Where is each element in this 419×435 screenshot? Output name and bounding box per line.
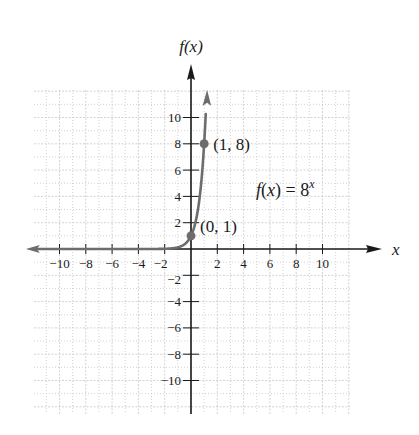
y-tick-label: 2 (175, 215, 182, 230)
y-tick-label: 6 (175, 163, 182, 178)
data-point (200, 139, 209, 148)
x-tick-label: −10 (49, 256, 69, 271)
y-tick-label: −10 (161, 373, 181, 388)
x-tick-label: −8 (79, 256, 93, 271)
y-tick-label: −8 (167, 347, 181, 362)
x-tick-label: −2 (154, 256, 168, 271)
y-tick-label: −4 (167, 294, 181, 309)
x-tick-label: 8 (293, 256, 300, 271)
x-tick-label: −4 (131, 256, 145, 271)
x-tick-label: 2 (214, 256, 221, 271)
y-tick-label: −6 (167, 320, 181, 335)
exponential-graph: −10−8−6−4−2246810−10−8−6−4−2246810xf(x)(… (0, 0, 419, 435)
y-tick-label: 8 (175, 136, 182, 151)
grid (34, 90, 350, 414)
x-tick-label: 10 (316, 256, 329, 271)
x-axis-label: x (391, 240, 400, 259)
y-axis-label: f(x) (179, 37, 203, 56)
function-curve (26, 90, 211, 253)
point-label: (0, 1) (200, 217, 237, 236)
y-tick-label: 10 (168, 110, 181, 125)
x-tick-label: 4 (240, 256, 247, 271)
function-label: f(x) = 8x (256, 177, 315, 201)
x-tick-label: −6 (105, 256, 119, 271)
labels: −10−8−6−4−2246810−10−8−6−4−2246810xf(x)(… (49, 37, 400, 388)
data-point (187, 231, 196, 240)
point-label: (1, 8) (213, 135, 250, 154)
y-tick-label: −2 (167, 272, 181, 287)
x-tick-label: 6 (267, 256, 274, 271)
y-tick-label: 4 (175, 189, 182, 204)
